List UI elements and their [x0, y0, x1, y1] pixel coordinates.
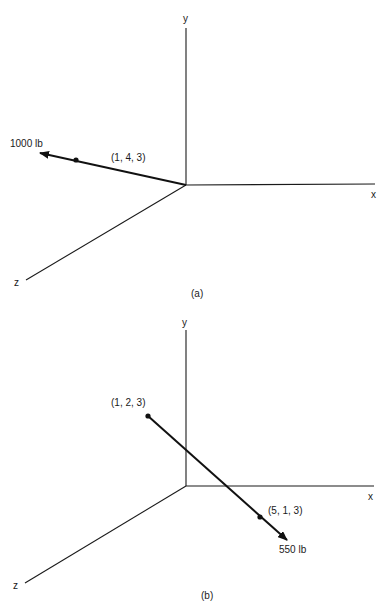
z-axis-b [25, 486, 186, 583]
y-axis-label-b: y [182, 317, 187, 328]
x-axis-label-a: x [371, 189, 376, 200]
x-axis-a [186, 184, 375, 185]
end-point-dot-b [257, 514, 262, 519]
x-axis-label-b: x [368, 491, 373, 502]
z-axis-label-a: z [14, 277, 19, 288]
point-label-a: (1, 4, 3) [111, 152, 145, 163]
force-magnitude-label-b: 550 lb [279, 544, 307, 555]
start-point-label-b: (1, 2, 3) [111, 397, 145, 408]
caption-b: (b) [201, 590, 213, 601]
figure-b: y x z (1, 2, 3) (5, 1, 3) 550 lb (b) [13, 317, 374, 601]
z-axis-a [26, 185, 186, 280]
point-dot-a [73, 157, 78, 162]
force-vector-b [148, 416, 287, 540]
start-point-dot-b [145, 413, 150, 418]
y-axis-label-a: y [183, 13, 188, 24]
end-point-label-b: (5, 1, 3) [268, 505, 302, 516]
figure-a: y x z 1000 lb (1, 4, 3) (a) [10, 13, 376, 299]
force-magnitude-label-a: 1000 lb [10, 138, 43, 149]
z-axis-label-b: z [13, 580, 18, 591]
force-diagram: y x z 1000 lb (1, 4, 3) (a) y x z (1, 2,… [0, 0, 388, 614]
caption-a: (a) [191, 288, 203, 299]
